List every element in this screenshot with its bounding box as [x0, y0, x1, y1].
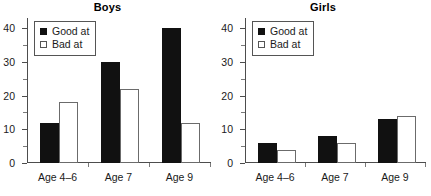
x-tick-sep-2-boys — [149, 163, 150, 167]
bar-group-age-9-boys — [149, 18, 210, 163]
x-category-label-age-4-6-girls: Age 4–6 — [245, 172, 305, 183]
bar-bad-at-age-9-girls — [397, 116, 416, 163]
x-tick-sep-3-girls — [425, 163, 426, 167]
bar-group-age-7-boys — [88, 18, 149, 163]
x-tick-sep-2-girls — [365, 163, 366, 167]
y-tick-0-boys: 0 — [22, 163, 27, 164]
bar-good-at-age-7-boys — [101, 62, 120, 163]
x-category-label-age-7-girls: Age 7 — [305, 172, 365, 183]
x-tick-sep-1-boys — [88, 163, 89, 167]
bar-good-at-age-9-girls — [378, 119, 397, 163]
legend-label-good-at-boys: Good at — [52, 25, 89, 38]
legend-swatch-bad-at-icon-girls — [258, 41, 265, 48]
y-tick-label-0-girls: 0 — [227, 158, 233, 169]
chart-panel-girls: Girls 0 10 20 30 40 — [215, 0, 431, 196]
legend-swatch-bad-at-icon-boys — [40, 41, 47, 48]
y-tick-label-30-girls: 30 — [221, 57, 233, 68]
legend-swatch-good-at-icon-girls — [258, 28, 265, 35]
bar-group-age-9-girls — [365, 18, 425, 163]
bar-bad-at-age-4-6-boys — [59, 102, 78, 163]
x-category-label-age-4-6-boys: Age 4–6 — [27, 172, 88, 183]
y-tick-label-20-girls: 20 — [221, 90, 233, 101]
bar-good-at-age-4-6-girls — [258, 143, 277, 163]
x-category-label-age-9-girls: Age 9 — [365, 172, 425, 183]
legend-label-bad-at-girls: Bad at — [270, 38, 300, 51]
bar-bad-at-age-7-girls — [337, 143, 356, 163]
y-tick-label-30-boys: 30 — [3, 57, 15, 68]
x-tick-sep-3-boys — [210, 163, 211, 167]
legend-item-bad-at-girls: Bad at — [258, 38, 307, 51]
y-tick-label-40-boys: 40 — [3, 23, 15, 34]
legend-item-bad-at-boys: Bad at — [40, 38, 89, 51]
legend-girls: Good at Bad at — [252, 21, 314, 56]
legend-item-good-at-boys: Good at — [40, 25, 89, 38]
panel-title-boys: Boys — [0, 1, 215, 13]
legend-label-bad-at-boys: Bad at — [52, 38, 82, 51]
x-category-label-age-9-boys: Age 9 — [149, 172, 210, 183]
bar-good-at-age-7-girls — [318, 136, 337, 163]
legend-boys: Good at Bad at — [34, 21, 96, 56]
x-category-label-age-7-boys: Age 7 — [88, 172, 149, 183]
y-tick-label-40-girls: 40 — [221, 23, 233, 34]
legend-label-good-at-girls: Good at — [270, 25, 307, 38]
y-tick-0-girls: 0 — [240, 163, 245, 164]
bar-bad-at-age-4-6-girls — [277, 150, 296, 164]
y-tick-label-20-boys: 20 — [3, 90, 15, 101]
two-panel-bar-chart-figure: Boys 0 10 20 30 40 — [0, 0, 431, 196]
legend-swatch-good-at-icon-boys — [40, 28, 47, 35]
x-tick-sep-1-girls — [305, 163, 306, 167]
y-tick-label-0-boys: 0 — [9, 158, 15, 169]
bar-bad-at-age-9-boys — [181, 123, 200, 164]
bar-bad-at-age-7-boys — [120, 89, 139, 163]
panel-title-girls: Girls — [215, 1, 431, 13]
bar-good-at-age-9-boys — [162, 28, 181, 163]
bar-good-at-age-4-6-boys — [40, 123, 59, 164]
y-tick-label-10-girls: 10 — [221, 124, 233, 135]
chart-panel-boys: Boys 0 10 20 30 40 — [0, 0, 215, 196]
legend-item-good-at-girls: Good at — [258, 25, 307, 38]
y-tick-label-10-boys: 10 — [3, 124, 15, 135]
